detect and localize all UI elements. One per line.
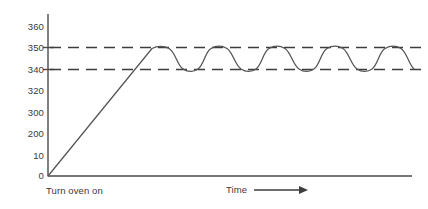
arrow-right-icon [299, 186, 308, 194]
y-tick-label: 200 [14, 129, 44, 139]
turn-oven-on-label: Turn oven on [46, 186, 103, 196]
y-tick-label: 10 [14, 151, 44, 161]
y-tick-label: 340 [14, 65, 44, 75]
chart-figure: 360 350 340 320 300 200 10 0 Turn oven o… [0, 0, 428, 209]
time-axis-label: Time [226, 185, 247, 195]
temperature-curve [48, 46, 414, 176]
y-tick-label: 360 [14, 22, 44, 32]
y-tick-label: 300 [14, 108, 44, 118]
y-tick-label: 320 [14, 86, 44, 96]
y-tick-label: 350 [14, 43, 44, 53]
chart-plot-area [0, 0, 428, 209]
y-tick-label: 0 [14, 171, 44, 181]
